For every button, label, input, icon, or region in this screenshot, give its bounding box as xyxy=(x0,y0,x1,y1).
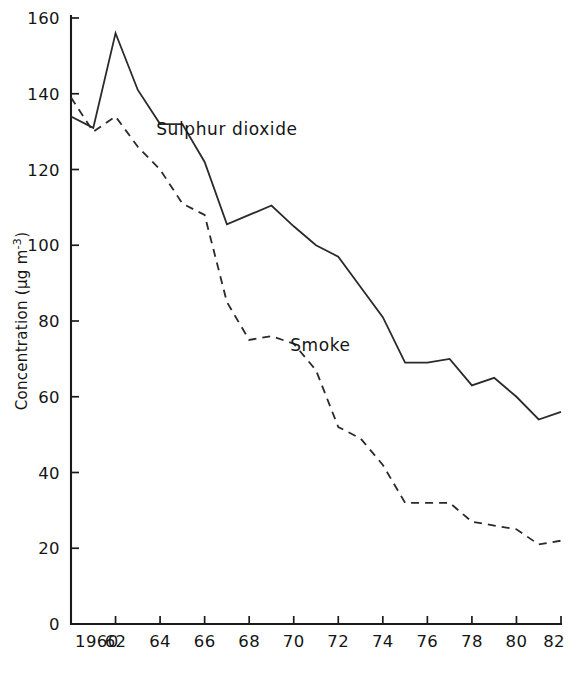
x-tick-label: 80 xyxy=(506,632,528,651)
x-tick-label: 64 xyxy=(149,632,171,651)
x-tick-label: 82 xyxy=(543,632,565,651)
y-tick-label: 20 xyxy=(38,539,60,558)
tick-marks xyxy=(71,18,561,624)
data-series xyxy=(71,33,561,544)
y-tick-label: 100 xyxy=(27,236,60,255)
y-tick-label: 0 xyxy=(49,615,60,634)
x-tick-label: 78 xyxy=(461,632,483,651)
y-tick-label: 80 xyxy=(38,312,60,331)
series-label-smoke: Smoke xyxy=(290,335,350,355)
y-axis-label-text: Concentration (µg m-3) xyxy=(11,232,32,411)
x-axis-tick-labels: 19606264666870727476788082 xyxy=(75,632,565,651)
y-tick-label: 40 xyxy=(38,464,60,483)
axes xyxy=(71,16,561,624)
y-tick-label: 120 xyxy=(27,161,60,180)
series-line-sulphur-dioxide xyxy=(71,33,561,419)
x-tick-label: 74 xyxy=(372,632,394,651)
series-line-smoke xyxy=(71,98,561,545)
y-axis-title: Concentration (µg m-3) xyxy=(11,232,32,411)
x-tick-label: 66 xyxy=(194,632,216,651)
series-label-sulphur-dioxide: Sulphur dioxide xyxy=(156,119,297,139)
y-tick-label: 60 xyxy=(38,388,60,407)
x-tick-label: 72 xyxy=(327,632,349,651)
axis-lines xyxy=(71,16,561,624)
y-tick-label: 140 xyxy=(27,85,60,104)
line-chart-svg: 19606264666870727476788082 0204060801001… xyxy=(0,0,579,679)
x-tick-label: 62 xyxy=(105,632,127,651)
x-tick-label: 76 xyxy=(416,632,438,651)
x-tick-label: 70 xyxy=(283,632,305,651)
y-tick-label: 160 xyxy=(27,9,60,28)
chart-container: 19606264666870727476788082 0204060801001… xyxy=(0,0,579,679)
series-annotations: Sulphur dioxideSmoke xyxy=(156,119,350,355)
y-axis-tick-labels: 020406080100120140160 xyxy=(27,9,60,634)
x-tick-label: 68 xyxy=(238,632,260,651)
